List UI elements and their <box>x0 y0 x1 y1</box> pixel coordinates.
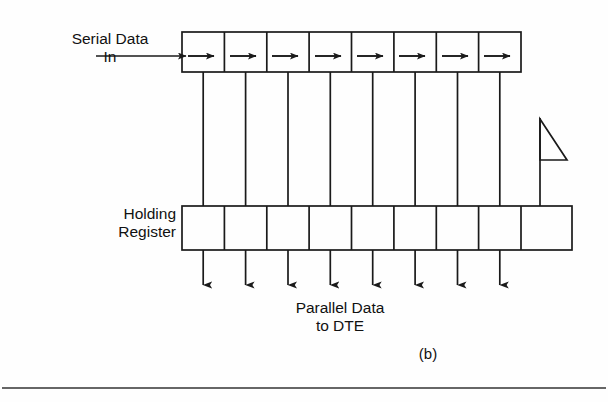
holding-register-line1: Holding <box>123 205 176 222</box>
figure-caption: (b) <box>378 345 478 363</box>
serial-data-in-label: Serial Data In <box>40 30 180 67</box>
clock-flag-group <box>540 118 567 206</box>
holding-register-outline <box>182 206 572 250</box>
connector-lines-group <box>203 72 500 206</box>
parallel-data-line1: Parallel Data <box>296 299 385 316</box>
holding-register-line2: Register <box>58 223 176 241</box>
shift-register-group <box>182 32 521 72</box>
holding-register-group <box>182 206 572 250</box>
serial-data-line1: Serial Data <box>72 30 149 47</box>
holding-register-label: Holding Register <box>58 205 176 242</box>
parallel-data-label: Parallel Data to DTE <box>250 299 430 336</box>
serial-data-line2: In <box>40 48 180 66</box>
clock-flag-triangle <box>540 119 567 160</box>
figure-page: Serial Data In Holding Register Parallel… <box>0 0 608 402</box>
output-arrows-group <box>203 250 500 285</box>
parallel-data-line2: to DTE <box>250 317 430 335</box>
